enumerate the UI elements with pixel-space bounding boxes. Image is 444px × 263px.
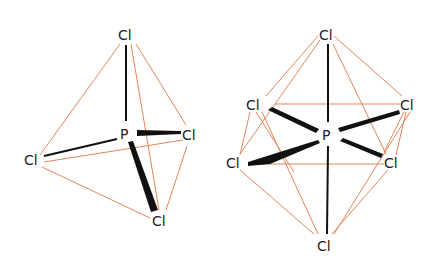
pcl6-atom-cl-top: Cl	[319, 27, 333, 43]
pcl5-atom-cl-right: Cl	[182, 127, 196, 143]
pcl5-atom-cl-bottom: Cl	[152, 213, 166, 229]
pcl6-atom-cl-upper-left: Cl	[246, 97, 260, 113]
pcl6-atom-cl-bottom: Cl	[317, 238, 331, 254]
pcl6-molecule: Cl Cl Cl P Cl Cl Cl	[226, 27, 414, 254]
pcl5-atom-cl-top: Cl	[118, 27, 132, 43]
pcl6-atom-p: P	[322, 127, 330, 143]
pcl6-atom-cl-lower-left: Cl	[226, 155, 240, 171]
pcl6-atom-cl-lower-right: Cl	[384, 155, 398, 171]
pcl5-atom-cl-left: Cl	[24, 152, 38, 168]
pcl5-bonds	[44, 45, 181, 212]
pcl6-atom-cl-upper-right: Cl	[400, 97, 414, 113]
pcl5-atom-p: P	[120, 126, 128, 142]
pcl5-molecule: Cl P Cl Cl Cl	[24, 27, 196, 229]
diagram-canvas: Cl P Cl Cl Cl	[0, 0, 444, 263]
molecule-diagrams: Cl P Cl Cl Cl	[0, 0, 444, 263]
